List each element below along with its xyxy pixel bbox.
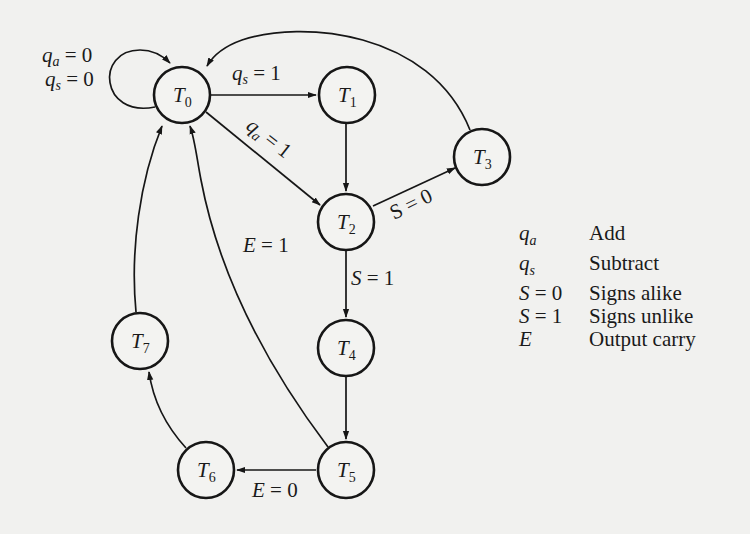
legend-symbol: E bbox=[519, 328, 589, 351]
state-t2: T2 bbox=[318, 194, 374, 250]
legend-description: Add bbox=[589, 222, 625, 252]
state-t6: T6 bbox=[178, 442, 234, 498]
state-t1: T1 bbox=[319, 67, 375, 123]
edge-label-s-0: S = 0 bbox=[386, 183, 437, 224]
legend-description: Subtract bbox=[589, 252, 659, 282]
legend-row-signs-alike: S = 0 Signs alike bbox=[519, 282, 696, 305]
edge-label-e-0: E = 0 bbox=[251, 478, 298, 502]
legend-description: Signs alike bbox=[589, 282, 682, 305]
legend-description: Signs unlike bbox=[589, 305, 693, 328]
edge-t5-to-t0 bbox=[190, 126, 328, 447]
state-t3: T3 bbox=[454, 129, 510, 185]
legend-symbol: qs bbox=[519, 252, 589, 282]
legend-row-subtract: qs Subtract bbox=[519, 252, 696, 282]
legend-row-add: qa Add bbox=[519, 222, 696, 252]
edge-label-qa-1: qa = 1 bbox=[241, 113, 297, 164]
nodes: T0 T1 T2 T3 T4 T5 T6 T7 bbox=[112, 67, 510, 498]
edge-label-qs-1: qs = 1 bbox=[232, 61, 281, 87]
state-t5: T5 bbox=[318, 442, 374, 498]
state-t4: T4 bbox=[318, 320, 374, 376]
edge-label-e-1: E = 1 bbox=[242, 233, 289, 257]
legend-row-output-carry: E Output carry bbox=[519, 328, 696, 351]
legend-description: Output carry bbox=[589, 328, 696, 351]
legend-row-signs-unlike: S = 1 Signs unlike bbox=[519, 305, 696, 328]
state-t7: T7 bbox=[112, 313, 168, 369]
edge-labels: qa = 0 qs = 0 qs = 1 qa = 1 S = 0 S = 1 … bbox=[42, 43, 436, 502]
legend-symbol: S = 1 bbox=[519, 305, 589, 328]
self-loop-label-qs: qs = 0 bbox=[45, 67, 94, 93]
self-loop-label-qa: qa = 0 bbox=[42, 43, 92, 69]
edge-label-s-1: S = 1 bbox=[351, 266, 394, 290]
edge-t0-to-t2 bbox=[206, 112, 320, 205]
state-t0: T0 bbox=[154, 67, 210, 123]
legend-symbol: qa bbox=[519, 222, 589, 252]
edge-t7-to-t0 bbox=[134, 126, 162, 312]
legend-symbol: S = 0 bbox=[519, 282, 589, 305]
edge-t6-to-t7 bbox=[149, 372, 186, 448]
legend: qa Add qs Subtract S = 0 Signs alike S =… bbox=[519, 222, 696, 351]
